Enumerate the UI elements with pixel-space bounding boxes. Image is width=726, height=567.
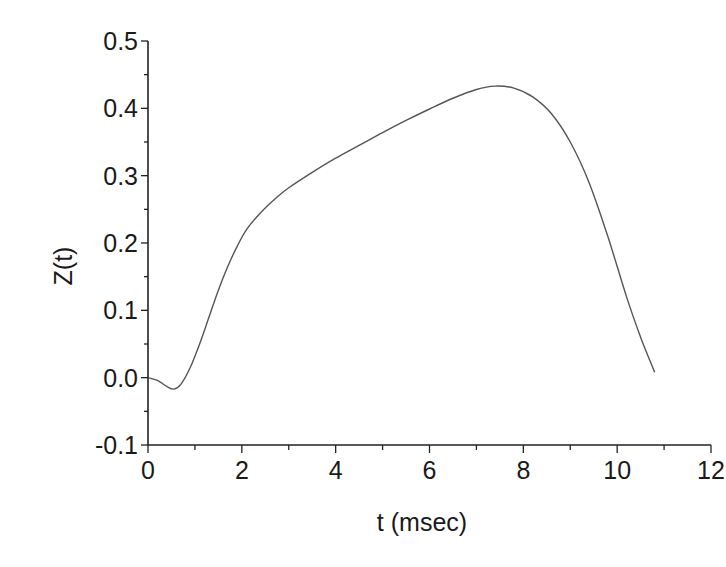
ticks — [141, 41, 711, 453]
y-tick-label: 0.3 — [103, 162, 138, 190]
series-line-z — [148, 86, 655, 389]
x-tick-label: 12 — [697, 456, 725, 484]
y-axis-title: Z(t) — [49, 247, 77, 286]
y-tick-label: 0.5 — [103, 27, 138, 55]
x-axis-title: t (msec) — [377, 508, 467, 536]
y-tick-label: -0.1 — [95, 431, 138, 459]
y-tick-label: 0.4 — [103, 94, 138, 122]
axes — [148, 41, 711, 445]
y-tick-label: 0.2 — [103, 229, 138, 257]
y-tick-labels: -0.10.00.10.20.30.40.5 — [95, 27, 138, 459]
x-tick-label: 0 — [141, 456, 155, 484]
line-chart: 024681012 -0.10.00.10.20.30.40.5 t (msec… — [0, 0, 726, 567]
x-tick-label: 6 — [423, 456, 437, 484]
y-tick-label: 0.1 — [103, 296, 138, 324]
y-tick-label: 0.0 — [103, 364, 138, 392]
x-tick-label: 4 — [329, 456, 343, 484]
x-tick-label: 2 — [235, 456, 249, 484]
x-tick-labels: 024681012 — [141, 456, 725, 484]
x-tick-label: 10 — [603, 456, 631, 484]
x-tick-label: 8 — [516, 456, 530, 484]
